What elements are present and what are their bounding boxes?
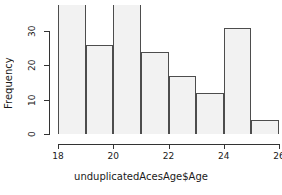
x-axis-tick-label: 26: [267, 152, 282, 161]
x-axis-tick-label: 24: [212, 152, 236, 161]
histogram-bar: [224, 28, 252, 134]
histogram-bar: [169, 76, 197, 134]
y-axis-tick-label: 0: [28, 126, 40, 142]
y-axis-tick: [44, 134, 49, 135]
x-axis-tick-label: 20: [101, 152, 125, 161]
histogram-bar: [251, 120, 279, 134]
y-axis-tick: [44, 100, 49, 101]
x-axis-tick: [169, 144, 170, 149]
histogram-bar: [141, 52, 169, 134]
histogram-figure: Frequency 0102030 1820222426 unduplicate…: [0, 0, 282, 195]
y-axis-tick-label: 10: [28, 92, 40, 108]
y-axis-line: [49, 31, 50, 135]
x-axis-tick: [113, 144, 114, 149]
x-axis-tick: [58, 144, 59, 149]
x-axis-title: unduplicatedAcesAge$Age: [0, 171, 282, 182]
histogram-bar: [196, 93, 224, 134]
x-axis-tick: [279, 144, 280, 149]
histogram-bar: [58, 5, 86, 134]
x-axis-tick-label: 22: [157, 152, 181, 161]
x-axis-tick: [224, 144, 225, 149]
histogram-bar: [113, 5, 141, 134]
histogram-bar: [86, 45, 114, 134]
y-axis-title: Frequency: [2, 38, 16, 128]
x-axis-tick-label: 18: [46, 152, 70, 161]
y-axis-tick: [44, 65, 49, 66]
y-axis-tick: [44, 31, 49, 32]
y-axis-tick-label: 30: [28, 23, 40, 39]
y-axis-tick-label: 20: [28, 57, 40, 73]
plot-area: [58, 5, 279, 134]
